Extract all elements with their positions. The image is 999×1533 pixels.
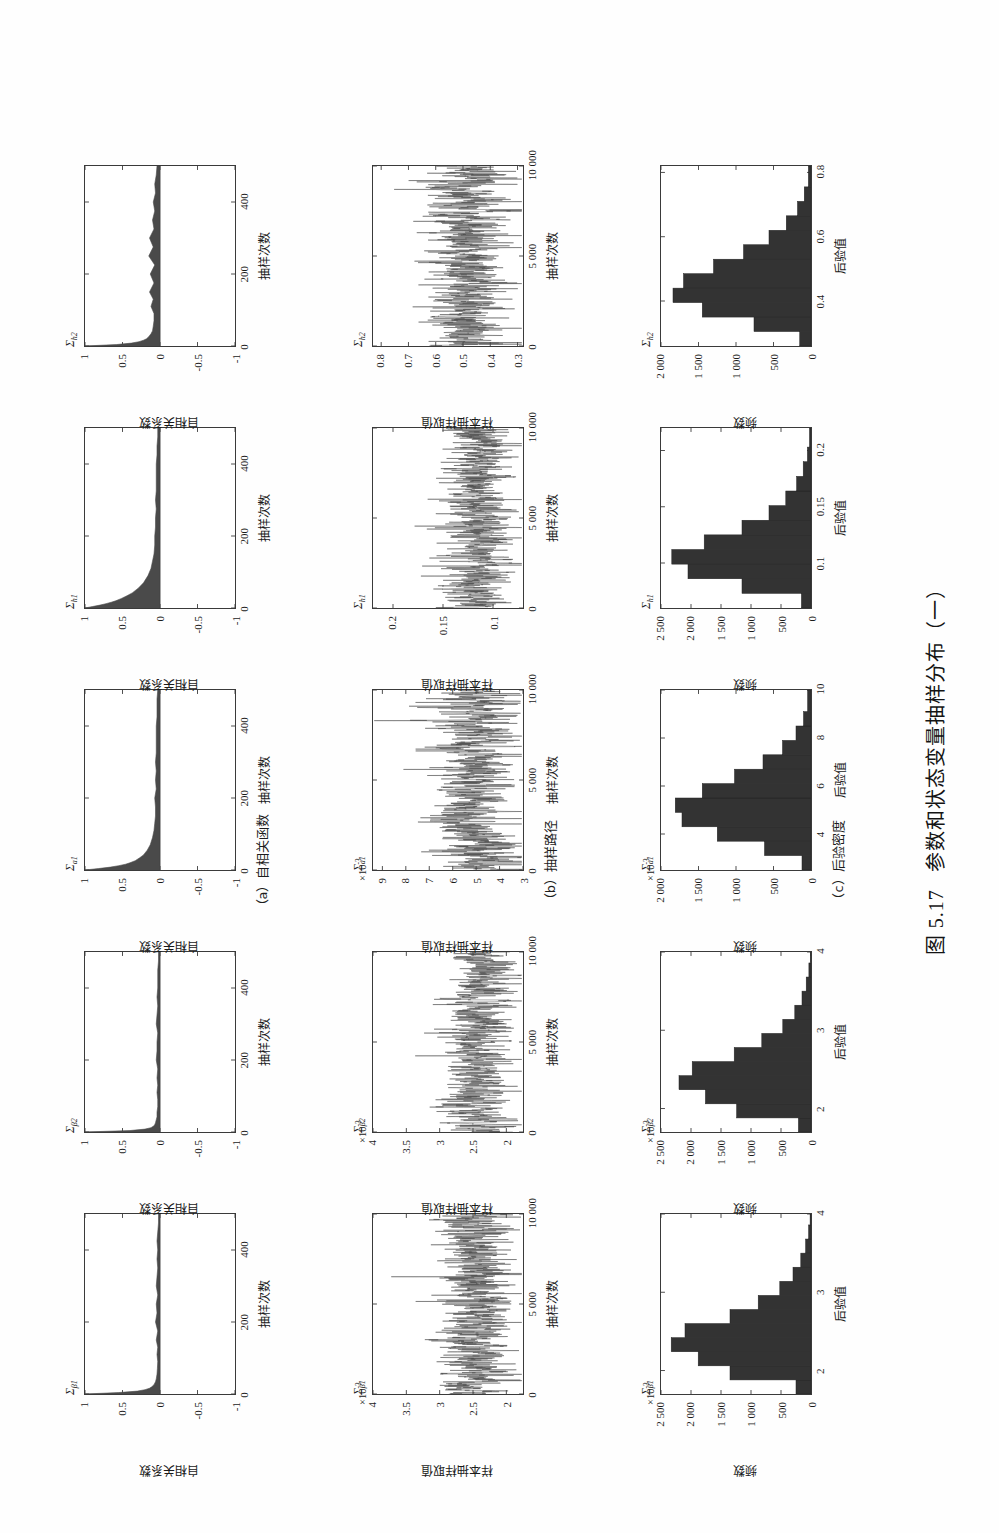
- y-tick-label: 0.8: [374, 354, 386, 368]
- plot-canvas: [85, 690, 235, 870]
- y-tick-label: 1 000: [730, 354, 742, 379]
- sigma-subscript: h2: [358, 332, 367, 340]
- plot-area: [84, 165, 236, 347]
- plot-area: [660, 165, 812, 347]
- histogram-bar: [673, 288, 811, 302]
- y-tick-label: -1: [230, 1402, 242, 1411]
- histogram-bar: [672, 550, 811, 565]
- y-tick-labels: 10.50-0.5-1: [84, 351, 236, 393]
- histogram-bar: [769, 230, 811, 244]
- histogram-bar: [679, 1076, 811, 1090]
- trace-line: [394, 166, 522, 346]
- y-axis-label: 样本抽样取值: [381, 939, 533, 956]
- x-tick-label: 5 000: [526, 244, 538, 269]
- y-tick-label: 0: [806, 616, 818, 622]
- y-tick-labels: 2 0001 5001 0005000: [660, 351, 812, 393]
- sigma-symbol: Σ: [352, 602, 364, 609]
- x-tick-labels: 0200400: [238, 1213, 256, 1395]
- histogram-bar: [758, 1295, 811, 1309]
- subplot-acf-h1: Σh110.50-0.5-10200400抽样次数自相关系数: [58, 423, 294, 655]
- x-tick-labels: 0200400: [238, 427, 256, 609]
- plot-area: [372, 1213, 524, 1395]
- histogram-bar: [742, 579, 811, 594]
- y-tick-label: 500: [776, 1140, 788, 1157]
- x-tick-label: 5 000: [526, 768, 538, 793]
- plot-canvas: [661, 428, 811, 608]
- y-tick-label: 1 500: [692, 878, 704, 903]
- acf-area: [85, 952, 160, 1132]
- plot-area: [84, 951, 236, 1133]
- figure-caption-text: 参数和状态变量抽样分布（一）: [924, 578, 948, 872]
- plot-canvas: [85, 1214, 235, 1394]
- subplot-title: Σβ2: [640, 951, 655, 1133]
- subplot-hist-h2: Σh22 0001 5001 00050000.40.60.8后验值频数: [634, 161, 870, 393]
- sigma-subscript: h1: [358, 594, 367, 602]
- histogram-bar: [783, 1019, 811, 1033]
- histogram-bar: [684, 274, 812, 288]
- y-axis-label: 频数: [669, 677, 821, 694]
- y-tick-label: -0.5: [192, 1140, 204, 1157]
- x-axis-label: 抽样次数: [255, 427, 272, 609]
- x-tick-label: 200: [238, 266, 250, 283]
- plot-area: [372, 165, 524, 347]
- x-tick-label: 0.2: [814, 443, 826, 457]
- x-tick-label: 5 000: [526, 1030, 538, 1055]
- histogram-bar: [809, 963, 811, 977]
- x-tick-label: 0: [238, 344, 250, 350]
- y-tick-label: 1 500: [692, 354, 704, 379]
- y-tick-label: 3.5: [400, 1140, 412, 1154]
- y-tick-label: 2 000: [684, 1140, 696, 1165]
- subplot-title: Σh1: [352, 427, 367, 609]
- histogram-bar: [765, 841, 812, 855]
- sigma-symbol: Σ: [64, 1388, 76, 1395]
- subplot-title: Σβ1: [640, 1213, 655, 1395]
- y-tick-label: 2 000: [684, 616, 696, 641]
- y-axis-label: 频数: [669, 1463, 821, 1480]
- y-tick-label: -1: [230, 616, 242, 625]
- trace-line: [391, 1214, 522, 1394]
- y-tick-label: 0: [806, 1140, 818, 1146]
- x-tick-label: 200: [238, 1052, 250, 1069]
- subplot-grid: Σβ110.50-0.5-10200400抽样次数自相关系数Σβ210.50-0…: [58, 141, 898, 1441]
- y-tick-label: 1: [78, 616, 90, 622]
- subplot-title: Σh2: [64, 165, 79, 347]
- histogram-bar: [769, 506, 811, 521]
- figure-caption: 图 5.17 参数和状态变量抽样分布（一）: [920, 0, 949, 1533]
- x-tick-labels: 0.10.150.2: [814, 427, 832, 609]
- sigma-symbol: Σ: [64, 864, 76, 871]
- histogram-bar: [783, 740, 812, 754]
- plot-area: [84, 689, 236, 871]
- panel-caption-c: （c）后验密度: [828, 713, 847, 1013]
- x-tick-label: 0: [238, 606, 250, 612]
- y-tick-label: 0.5: [116, 1402, 128, 1416]
- histogram-bar: [798, 1118, 811, 1132]
- subplot-title: Σh2: [640, 165, 655, 347]
- histogram-bar: [796, 1380, 811, 1394]
- histogram-bar: [800, 332, 811, 346]
- y-tick-label: 0: [806, 1402, 818, 1408]
- x-tick-labels: 05 00010 000: [526, 165, 544, 347]
- y-axis-label: 样本抽样取值: [381, 415, 533, 432]
- histogram-bar: [730, 1309, 811, 1323]
- y-tick-label: 0.5: [116, 616, 128, 630]
- sigma-subscript: h1: [70, 594, 79, 602]
- histogram-bar: [762, 1033, 811, 1047]
- y-tick-label: 1 000: [745, 1140, 757, 1165]
- plot-canvas: [373, 952, 523, 1132]
- histogram-bar: [798, 201, 812, 215]
- histogram-bar: [692, 1062, 811, 1076]
- plot-area: [372, 427, 524, 609]
- histogram-bar: [671, 1338, 811, 1352]
- panel-caption-a: （a）自相关函数: [252, 713, 271, 1013]
- plot-canvas: [85, 166, 235, 346]
- plot-area: [84, 1213, 236, 1395]
- y-tick-label: 4: [366, 1140, 378, 1146]
- y-tick-labels: 10.50-0.5-1: [84, 1137, 236, 1179]
- histogram-bar: [737, 1104, 811, 1118]
- trace-line: [374, 690, 522, 870]
- histogram-bar: [717, 827, 811, 841]
- sigma-subscript: a1: [70, 856, 79, 864]
- y-tick-label: -0.5: [192, 354, 204, 371]
- x-tick-label: 0: [526, 606, 538, 612]
- y-tick-label: 1 500: [715, 1140, 727, 1165]
